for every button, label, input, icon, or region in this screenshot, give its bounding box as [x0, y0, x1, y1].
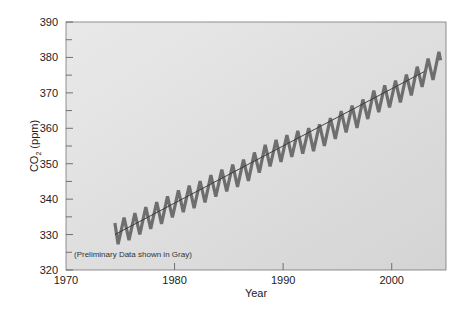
preliminary-note: (Preliminary Data shown in Gray): [74, 250, 192, 259]
x-tick-label: 1970: [54, 274, 78, 286]
y-tick-label: 340: [40, 193, 58, 205]
x-tick-label: 1990: [271, 274, 295, 286]
y-tick-label: 370: [40, 87, 58, 99]
y-axis-title: CO2 (ppm): [28, 120, 42, 172]
y-tick-label: 390: [40, 16, 58, 28]
y-tick-label: 360: [40, 122, 58, 134]
y-tick-label: 330: [40, 229, 58, 241]
plot-area: [66, 22, 446, 270]
y-tick-label: 380: [40, 51, 58, 63]
y-tick-label: 350: [40, 158, 58, 170]
x-axis-title: Year: [245, 287, 268, 299]
co2-chart: 320330340350360370380390 197019801990200…: [0, 0, 469, 312]
x-tick-label: 1980: [162, 274, 186, 286]
x-tick-label: 2000: [379, 274, 403, 286]
